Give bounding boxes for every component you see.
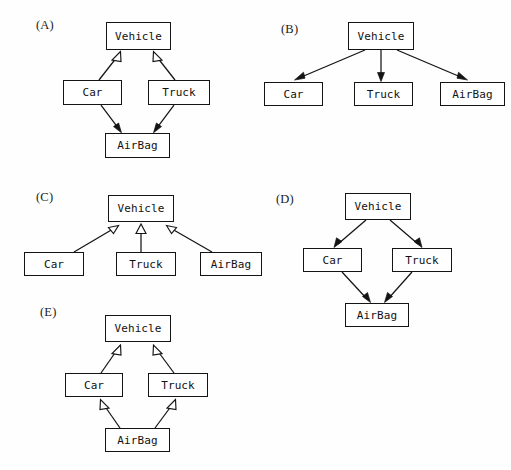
panel-label-e: (E)	[40, 305, 57, 320]
diagram-edges-layer	[0, 0, 511, 470]
edge-e-truck-vehicle	[157, 350, 174, 373]
edge-c-car-vehicle	[74, 229, 113, 252]
arrowhead-solid-b-vehicle-airbag	[457, 72, 468, 80]
node-a-car: Car	[63, 80, 122, 105]
arrowhead-hollow-c-truck-vehicle	[136, 224, 146, 234]
node-a-vehicle: Vehicle	[106, 22, 171, 50]
node-e-truck: Truck	[148, 373, 208, 397]
arrowhead-solid-b-vehicle-car	[295, 72, 306, 80]
node-b-car: Car	[264, 82, 323, 106]
edge-d-car-airbag	[342, 272, 367, 299]
panel-label-c: (C)	[36, 190, 53, 205]
node-a-airbag: AirBag	[105, 133, 170, 158]
panel-label-b: (B)	[281, 22, 298, 37]
node-c-car: Car	[24, 252, 84, 276]
edge-a-car-vehicle	[99, 57, 117, 80]
node-c-vehicle: Vehicle	[108, 195, 174, 222]
arrowhead-solid-a-car-airbag	[114, 123, 122, 133]
edge-d-vehicle-truck	[390, 220, 418, 244]
arrowhead-hollow-c-car-vehicle	[109, 226, 119, 234]
edge-d-truck-airbag	[388, 272, 412, 299]
arrowhead-hollow-e-truck-vehicle	[153, 345, 162, 355]
node-c-airbag: AirBag	[200, 252, 262, 276]
edge-a-truck-vehicle	[157, 57, 175, 80]
edge-e-airbag-car	[104, 405, 120, 428]
node-c-truck: Truck	[116, 252, 176, 276]
node-a-truck: Truck	[148, 80, 210, 105]
arrowhead-solid-d-car-airbag	[363, 293, 371, 303]
arrowhead-solid-a-truck-airbag	[154, 123, 162, 133]
edge-b-vehicle-car	[299, 50, 365, 78]
arrowhead-hollow-c-airbag-vehicle	[167, 226, 177, 234]
edge-e-airbag-truck	[155, 405, 172, 428]
edge-a-truck-airbag	[156, 105, 174, 129]
arrowhead-hollow-e-car-vehicle	[112, 345, 121, 355]
arrowhead-hollow-e-airbag-car	[100, 400, 109, 410]
panel-c-edges	[74, 224, 212, 252]
arrowhead-hollow-a-truck-vehicle	[153, 52, 162, 62]
uml-class-diagram-figure: (A) (B) (C) (D) (E) Vehicle Car Truck Ai…	[0, 0, 511, 470]
panel-label-d: (D)	[276, 192, 294, 207]
arrowhead-hollow-e-airbag-truck	[167, 400, 176, 410]
edge-a-car-airbag	[101, 105, 119, 129]
node-b-vehicle: Vehicle	[348, 22, 414, 50]
node-d-airbag: AirBag	[345, 303, 409, 327]
panel-b-edges	[295, 50, 468, 82]
edge-b-vehicle-airbag	[397, 50, 463, 78]
node-e-car: Car	[65, 373, 123, 397]
edge-e-car-vehicle	[101, 350, 117, 373]
node-d-truck: Truck	[392, 248, 452, 272]
node-e-airbag: AirBag	[105, 428, 170, 452]
arrowhead-solid-d-vehicle-truck	[414, 238, 422, 248]
node-d-car: Car	[303, 248, 362, 272]
node-b-truck: Truck	[354, 82, 413, 106]
panel-label-a: (A)	[36, 18, 54, 33]
node-b-airbag: AirBag	[440, 82, 505, 106]
edge-d-vehicle-car	[338, 220, 366, 244]
edge-c-airbag-vehicle	[172, 229, 212, 252]
arrowhead-solid-d-vehicle-car	[334, 238, 342, 248]
arrowhead-solid-d-truck-airbag	[385, 293, 393, 303]
node-e-vehicle: Vehicle	[105, 315, 171, 342]
arrowhead-solid-b-vehicle-truck	[378, 73, 385, 82]
node-d-vehicle: Vehicle	[345, 193, 411, 220]
arrowhead-hollow-a-car-vehicle	[112, 52, 121, 62]
